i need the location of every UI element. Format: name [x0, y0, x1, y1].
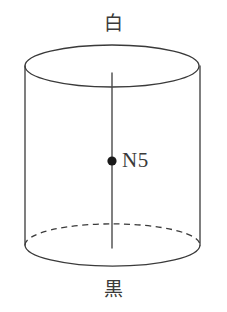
bottom-label: 黒 — [0, 280, 227, 299]
top-label: 白 — [0, 14, 227, 33]
center-point-dot — [107, 156, 116, 165]
cylinder-diagram: 白 N5 黒 — [0, 0, 227, 312]
cylinder-drawing — [0, 0, 227, 312]
center-point-label: N5 — [122, 150, 149, 171]
